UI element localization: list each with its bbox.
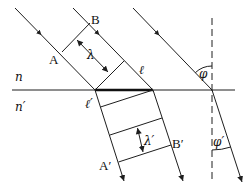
incident-ray-a (15, 8, 95, 90)
refracted-wavefront-1 (101, 90, 154, 107)
refracted-wavefront-2 (110, 118, 162, 135)
lambda-prime-arrow (138, 128, 144, 152)
point-a-prime-label: A′ (99, 158, 111, 173)
phi-prime-label: φ′ (213, 135, 224, 149)
ell-label: ℓ (139, 63, 144, 77)
lambda-label: λ (86, 48, 95, 62)
point-b-label: B (91, 12, 100, 27)
lambda-prime-label: λ′ (143, 134, 155, 148)
medium-n-label: n (15, 70, 23, 84)
incident-ray-b (73, 8, 153, 90)
point-a-label: A (49, 52, 59, 67)
phi-label: φ (199, 67, 208, 81)
medium-n-prime-label: n′ (15, 100, 26, 114)
incident-wavefront-ab (62, 23, 90, 52)
incident-wavefront-interface (95, 61, 124, 90)
point-b-prime-label: B′ (172, 136, 184, 151)
refraction-diagram: n n′ A B λ ℓ ℓ′ A′ B′ λ′ φ φ′ (0, 0, 251, 191)
ell-prime-label: ℓ′ (85, 97, 93, 111)
